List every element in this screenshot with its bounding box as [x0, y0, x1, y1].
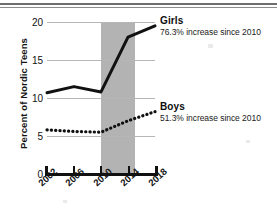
- legend-girls-title: Girls: [160, 15, 261, 26]
- plot-area: [47, 22, 155, 174]
- legend-girls: Girls 76.3% increase since 2010: [160, 15, 261, 37]
- y-tick-label: 5: [3, 131, 43, 142]
- legend-girls-subtitle: 76.3% increase since 2010: [160, 27, 261, 37]
- y-tick-label: 15: [3, 55, 43, 66]
- scan-speck: [208, 44, 213, 48]
- scan-speck: [246, 140, 250, 143]
- y-axis-ticks: 0 5 10 15 20: [0, 0, 43, 223]
- scan-speck: [63, 200, 67, 203]
- chart-figure: Percent of Nordic Teens 0 5 10 15 20 200…: [0, 0, 277, 223]
- series-line-boys: [47, 112, 155, 133]
- legend-boys-title: Boys: [160, 101, 261, 112]
- legend-boys-subtitle: 51.3% increase since 2010: [160, 113, 261, 123]
- legend-boys: Boys 51.3% increase since 2010: [160, 101, 261, 123]
- series-layer: [47, 22, 155, 174]
- y-tick-label: 10: [3, 93, 43, 104]
- y-tick-label: 20: [3, 17, 43, 28]
- series-line-girls: [47, 26, 155, 93]
